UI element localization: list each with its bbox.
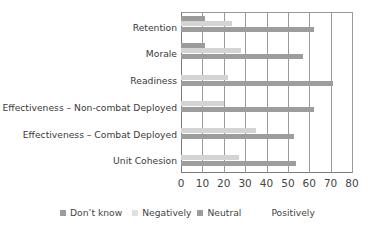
legend-item-negatively: Negatively bbox=[132, 207, 191, 218]
bar bbox=[181, 128, 256, 133]
bar bbox=[181, 75, 228, 80]
bar bbox=[181, 155, 239, 160]
bar bbox=[181, 107, 314, 112]
legend-label: Neutral bbox=[207, 207, 241, 218]
x-tick-label: 40 bbox=[260, 177, 273, 189]
gridline bbox=[331, 12, 332, 173]
gridline bbox=[288, 12, 289, 173]
category-label-unit-cohesion: Unit Cohesion bbox=[113, 155, 177, 166]
legend-label: Don’t know bbox=[70, 207, 122, 218]
legend-label: Negatively bbox=[142, 207, 191, 218]
gridline bbox=[224, 12, 225, 173]
bar bbox=[181, 161, 296, 166]
bar bbox=[181, 81, 333, 86]
bar bbox=[181, 54, 303, 59]
legend-item-positively: Positively bbox=[261, 207, 314, 218]
x-tick-label: 60 bbox=[303, 177, 316, 189]
legend-item-neutral: Neutral bbox=[197, 207, 241, 218]
x-tick-label: 30 bbox=[238, 177, 251, 189]
legend-label: Positively bbox=[271, 207, 314, 218]
legend-swatch-icon bbox=[261, 210, 267, 216]
gridline bbox=[202, 12, 203, 173]
legend-swatch-icon bbox=[197, 210, 203, 216]
gridline bbox=[352, 12, 353, 173]
category-label-morale: Morale bbox=[146, 48, 177, 59]
x-tick-label: 10 bbox=[196, 177, 209, 189]
category-label-effectiveness-combat: Effectiveness – Combat Deployed bbox=[23, 129, 177, 140]
bar bbox=[181, 48, 241, 53]
legend-swatch-icon bbox=[132, 210, 138, 216]
x-tick-label: 20 bbox=[217, 177, 230, 189]
x-tick-label: 70 bbox=[324, 177, 337, 189]
category-label-effectiveness-noncombat: Effectiveness – Non-combat Deployed bbox=[3, 102, 177, 113]
category-label-retention: Retention bbox=[133, 22, 177, 33]
gridline bbox=[309, 12, 310, 173]
bar bbox=[181, 27, 314, 32]
bar bbox=[181, 101, 224, 106]
category-label-readiness: Readiness bbox=[130, 75, 177, 86]
legend-item-dont-know: Don’t know bbox=[60, 207, 122, 218]
bar bbox=[181, 134, 294, 139]
legend-swatch-icon bbox=[60, 210, 66, 216]
gridline bbox=[267, 12, 268, 173]
bar bbox=[181, 21, 232, 26]
x-tick-label: 80 bbox=[345, 177, 358, 189]
x-tick-label: 50 bbox=[281, 177, 294, 189]
gridline bbox=[245, 12, 246, 173]
x-tick-label: 0 bbox=[178, 177, 185, 189]
legend: Don’t know Negatively Neutral Positively bbox=[60, 207, 321, 218]
